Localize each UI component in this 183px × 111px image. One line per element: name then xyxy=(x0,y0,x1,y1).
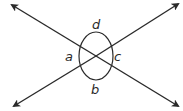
line-1-ext xyxy=(96,56,178,106)
line-2 xyxy=(14,56,96,106)
line-2-ext xyxy=(96,4,178,56)
line-1 xyxy=(12,5,96,56)
label-d: d xyxy=(92,17,101,32)
intersecting-lines-diagram: d a c b xyxy=(0,0,183,111)
label-b: b xyxy=(91,82,99,97)
label-c: c xyxy=(114,49,121,64)
label-a: a xyxy=(65,49,73,64)
